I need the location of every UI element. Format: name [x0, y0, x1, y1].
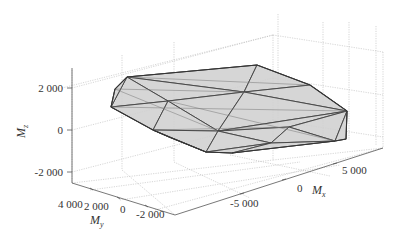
y-tick: 0 [120, 203, 126, 215]
x-axis-line [175, 148, 383, 215]
z-axis-label: Mz [14, 124, 30, 139]
y-tick: 4 000 [58, 198, 83, 210]
x-axis-label: Mx [311, 183, 326, 199]
x-tick: 5 000 [342, 164, 367, 176]
y-tick: 2 000 [84, 200, 109, 212]
x-tick: -5 000 [230, 197, 259, 209]
z-tick: 0 [58, 124, 64, 136]
y-tick-labels: 4 000 2 000 0 -2 000 [58, 198, 165, 220]
x-tick: 0 [297, 182, 303, 194]
z-tick: -2 000 [35, 166, 64, 178]
z-tick-labels: 2 000 0 -2 000 [35, 82, 64, 178]
3d-plot: 2 000 0 -2 000 4 000 2 000 0 -2 000 -5 0… [0, 0, 396, 237]
polyhedron-surface [111, 65, 347, 153]
z-tick: 2 000 [38, 82, 63, 94]
y-tick: -2 000 [136, 208, 165, 220]
y-axis-label: My [89, 213, 104, 229]
